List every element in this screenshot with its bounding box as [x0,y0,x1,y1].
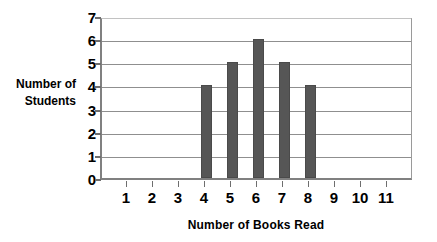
x-axis-tick-label: 9 [321,190,347,206]
y-axis-tick [95,110,101,112]
y-axis-title: Number of Students [2,76,76,110]
x-axis-tick-label: 3 [165,190,191,206]
x-axis-tick-label: 7 [269,190,295,206]
x-axis-tick [152,181,153,187]
x-axis-tick [308,181,309,187]
y-axis-tick [95,179,101,181]
gridline [102,18,411,19]
y-axis-tick-label: 2 [78,126,96,141]
y-axis-title-line-1: Number of [2,76,76,93]
y-axis-tick-label: 1 [78,149,96,164]
x-axis-tick-label: 11 [373,190,399,206]
x-axis-tick-label: 1 [113,190,139,206]
y-axis-tick [95,17,101,19]
x-axis-tick-label: 8 [295,190,321,206]
x-axis-tick [230,181,231,187]
x-axis-title: Number of Books Read [100,218,412,232]
bar [253,39,264,178]
y-axis-tick [95,86,101,88]
x-axis-tick-label: 2 [139,190,165,206]
y-axis-tick [95,63,101,65]
x-axis-tick [334,181,335,187]
y-axis-tick-label: 6 [78,33,96,48]
bar [201,85,212,178]
x-axis-tick [282,181,283,187]
bar-chart: Number of Students 01234567 123456789101… [0,0,437,242]
y-axis-title-line-2: Students [2,93,76,110]
x-axis-tick [204,181,205,187]
y-axis-tick-label: 4 [78,79,96,94]
x-axis-tick [360,181,361,187]
bar [227,62,238,178]
x-axis-tick-label: 4 [191,190,217,206]
bar [279,62,290,178]
y-axis-tick-label: 3 [78,103,96,118]
x-axis-tick [178,181,179,187]
x-axis-tick-label: 6 [243,190,269,206]
plot-area [100,18,412,180]
x-axis-tick [126,181,127,187]
y-axis-tick-label: 7 [78,10,96,25]
x-axis-tick [256,181,257,187]
y-axis-tick [95,133,101,135]
y-axis-tick [95,156,101,158]
x-axis-tick-label: 5 [217,190,243,206]
y-axis-tick-label: 0 [78,172,96,187]
y-axis-tick [95,40,101,42]
x-axis-tick-label: 10 [347,190,373,206]
x-axis-tick [386,181,387,187]
y-axis-tick-label: 5 [78,56,96,71]
bar [305,85,316,178]
